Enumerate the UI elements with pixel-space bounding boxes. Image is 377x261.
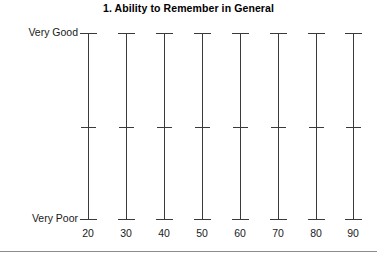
- range-marker-stem: [202, 33, 203, 219]
- range-marker-stem: [126, 33, 127, 219]
- range-marker-upper-cap: [308, 33, 325, 34]
- x-axis-tick-label: 40: [144, 227, 184, 239]
- range-marker-lower-cap: [156, 219, 173, 220]
- range-marker-lower-cap: [194, 219, 211, 220]
- x-axis-tick-label: 80: [296, 227, 336, 239]
- range-marker-upper-cap: [345, 33, 362, 34]
- range-marker-upper-cap: [80, 33, 97, 34]
- range-marker-stem: [88, 33, 89, 219]
- range-marker-lower-cap: [118, 219, 135, 220]
- y-axis-label-very-poor: Very Poor: [32, 213, 78, 224]
- range-marker-lower-cap: [80, 219, 97, 220]
- range-marker-median-tick: [81, 127, 96, 128]
- range-marker-median-tick: [233, 127, 248, 128]
- range-marker-upper-cap: [194, 33, 211, 34]
- range-marker-lower-cap: [308, 219, 325, 220]
- chart-figure: 1. Ability to Remember in General Very G…: [0, 0, 377, 261]
- range-marker-stem: [316, 33, 317, 219]
- x-axis-tick-label: 20: [68, 227, 108, 239]
- range-marker-median-tick: [271, 127, 286, 128]
- range-marker-lower-cap: [232, 219, 249, 220]
- range-marker-stem: [353, 33, 354, 219]
- range-marker-upper-cap: [118, 33, 135, 34]
- range-marker-median-tick: [119, 127, 134, 128]
- range-marker-lower-cap: [345, 219, 362, 220]
- range-marker-stem: [164, 33, 165, 219]
- range-marker-lower-cap: [270, 219, 287, 220]
- x-axis-tick-label: 30: [106, 227, 146, 239]
- range-marker-stem: [278, 33, 279, 219]
- x-axis-tick-label: 70: [258, 227, 298, 239]
- range-marker-upper-cap: [232, 33, 249, 34]
- range-marker-median-tick: [195, 127, 210, 128]
- x-axis-tick-label: 90: [333, 227, 373, 239]
- plot-area: Very Good Very Poor 2030405060708090: [0, 0, 377, 245]
- range-marker-median-tick: [157, 127, 172, 128]
- range-marker-median-tick: [309, 127, 324, 128]
- x-axis-tick-label: 50: [182, 227, 222, 239]
- range-marker-upper-cap: [270, 33, 287, 34]
- y-axis-label-very-good: Very Good: [28, 27, 78, 38]
- range-marker-upper-cap: [156, 33, 173, 34]
- bottom-divider: [0, 251, 377, 252]
- range-marker-stem: [240, 33, 241, 219]
- x-axis-tick-label: 60: [220, 227, 260, 239]
- range-marker-median-tick: [346, 127, 361, 128]
